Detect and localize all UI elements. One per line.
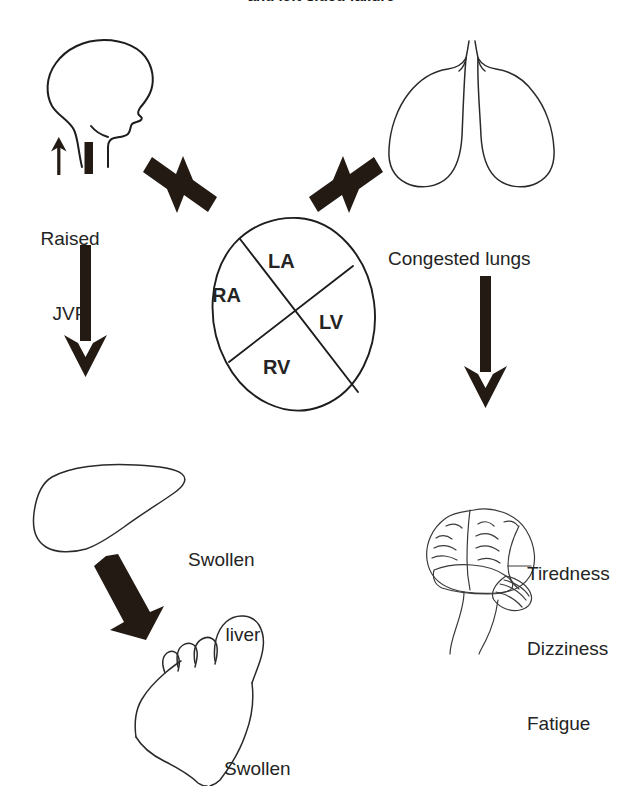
liver-label-line1: Swollen bbox=[188, 547, 298, 572]
heart-chamber-lv: LV bbox=[319, 310, 343, 335]
cerebral-symptoms-label: Tiredness Dizziness Fatigue Confusion bbox=[527, 511, 642, 786]
jvp-neck-marker bbox=[83, 142, 95, 174]
liver-illustration bbox=[32, 455, 212, 565]
diagram-title: and left-sided failure bbox=[0, 0, 642, 5]
cerebral-symptom-tiredness: Tiredness bbox=[527, 561, 642, 586]
jvp-up-arrow-icon bbox=[48, 137, 70, 175]
heart-chamber-ra: RA bbox=[212, 283, 241, 308]
arrow-heart-to-jvp bbox=[146, 145, 218, 225]
ankles-label-line1: Swollen bbox=[224, 756, 344, 781]
lungs-label-line1: Congested lungs bbox=[388, 246, 588, 271]
lungs-illustration bbox=[382, 41, 562, 201]
cerebral-symptom-dizziness: Dizziness bbox=[527, 636, 642, 661]
ankles-label: Swollen ankles bbox=[224, 706, 344, 786]
heart-failure-diagram: and left-sided failure Raised JVP bbox=[0, 0, 642, 786]
heart-chamber-rv: RV bbox=[263, 355, 290, 380]
heart-illustration bbox=[190, 214, 390, 414]
heart-chamber-la: LA bbox=[268, 249, 295, 274]
cerebral-symptom-fatigue: Fatigue bbox=[527, 711, 642, 736]
arrow-heart-to-lungs bbox=[308, 145, 380, 225]
arrow-to-liver bbox=[62, 245, 110, 377]
arrow-to-brain bbox=[462, 276, 510, 408]
